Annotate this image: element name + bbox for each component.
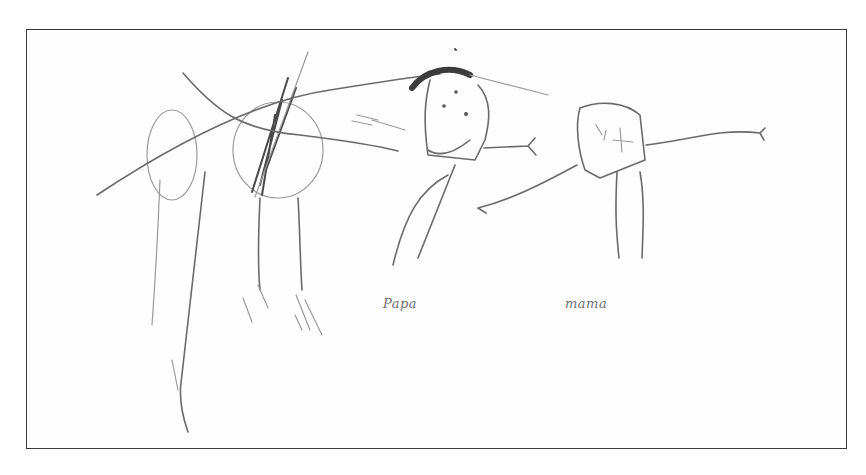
figure-mama	[478, 103, 765, 258]
crossing-line-arc	[97, 74, 440, 195]
child-drawing	[0, 0, 866, 475]
label-papa: Papa	[383, 296, 417, 311]
label-mama: mama	[565, 296, 607, 311]
